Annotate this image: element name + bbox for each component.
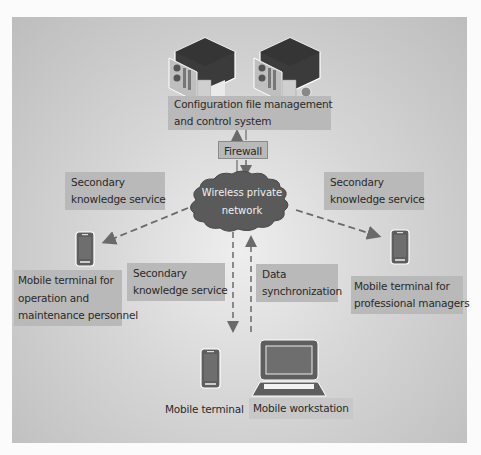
right-service-label: Secondary knowledge service	[324, 172, 424, 210]
firewall-label: Firewall	[218, 141, 268, 159]
sync-line1: Data	[262, 266, 332, 283]
network-label: Wireless private network	[194, 184, 290, 220]
firewall-label-text: Firewall	[224, 145, 262, 157]
laptop-icon	[252, 340, 326, 396]
server-system-label-line1: Configuration file management	[174, 96, 325, 113]
server-rack-icon	[169, 38, 235, 102]
down-service-line2: knowledge service	[133, 282, 219, 299]
left-service-line1: Secondary	[71, 174, 159, 191]
smartphone-icon	[201, 349, 220, 388]
server-rack-icon	[254, 38, 320, 102]
smartphone-icon	[76, 232, 94, 266]
arrow-network-to-manager-terminal	[296, 210, 378, 236]
ops-terminal-line1: Mobile terminal for	[18, 272, 118, 290]
left-service-label: Secondary knowledge service	[65, 172, 165, 210]
manager-terminal-line1: Mobile terminal for	[354, 278, 460, 295]
ops-terminal-label: Mobile terminal for operation and mainte…	[14, 270, 122, 326]
right-service-line1: Secondary	[330, 174, 418, 191]
manager-terminal-label: Mobile terminal for professional manager…	[351, 276, 463, 314]
left-service-line2: knowledge service	[71, 191, 159, 208]
mobile-terminal-label-text: Mobile terminal	[165, 403, 244, 415]
ops-terminal-line3: maintenance personnel	[18, 307, 118, 325]
down-service-line1: Secondary	[133, 265, 219, 282]
mobile-terminal-label: Mobile terminal	[163, 400, 246, 419]
network-label-line2: network	[194, 202, 290, 220]
right-service-line2: knowledge service	[330, 191, 418, 208]
down-service-label: Secondary knowledge service	[127, 263, 225, 301]
diagram-canvas	[0, 0, 481, 455]
network-label-line1: Wireless private	[194, 184, 290, 202]
arrow-network-to-ops-terminal	[105, 208, 188, 242]
mobile-workstation-label: Mobile workstation	[249, 398, 353, 419]
smartphone-icon	[391, 230, 409, 264]
server-system-label: Configuration file management and contro…	[168, 96, 331, 130]
mobile-workstation-label-text: Mobile workstation	[253, 402, 349, 414]
server-system-label-line2: and control system	[174, 113, 325, 130]
manager-terminal-line2: professional managers	[354, 295, 460, 312]
sync-line2: synchronization	[262, 283, 332, 300]
sync-label: Data synchronization	[256, 264, 338, 302]
ops-terminal-line2: operation and	[18, 290, 118, 308]
